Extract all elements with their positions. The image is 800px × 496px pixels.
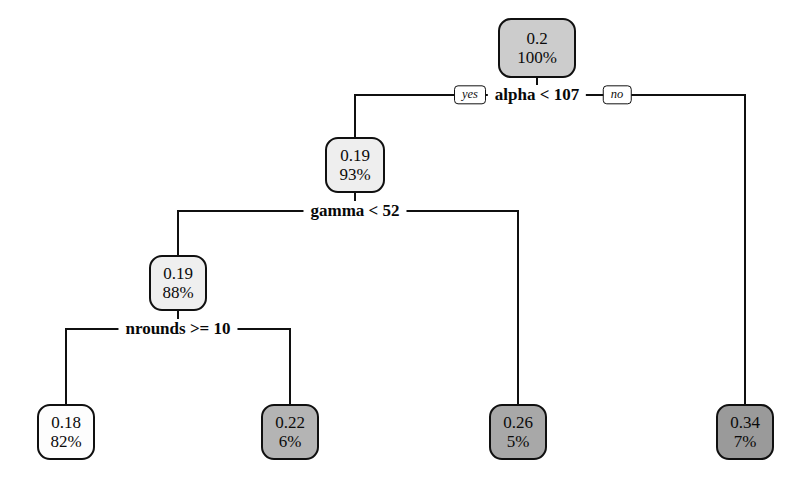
node-percent: 6%: [279, 432, 302, 451]
node-value: 0.22: [275, 413, 305, 432]
node-value: 0.34: [730, 413, 760, 432]
branch-label-yes: yes: [454, 85, 486, 104]
split-condition-label: gamma < 52: [303, 201, 406, 221]
node-value: 0.19: [340, 146, 370, 165]
node-percent: 82%: [50, 432, 81, 451]
tree-internal-node: 0.1988%: [149, 255, 207, 311]
node-percent: 93%: [339, 165, 370, 184]
node-percent: 100%: [517, 48, 557, 67]
node-value: 0.19: [163, 264, 193, 283]
branch-label-no: no: [603, 85, 632, 104]
node-percent: 7%: [734, 432, 757, 451]
node-value: 0.2: [526, 29, 547, 48]
edge-right-split-nrounds: [178, 329, 290, 404]
node-value: 0.26: [503, 413, 533, 432]
tree-leaf-node: 0.226%: [261, 404, 319, 460]
node-value: 0.18: [51, 413, 81, 432]
node-percent: 5%: [507, 432, 530, 451]
edge-right-split-gamma: [355, 211, 518, 404]
tree-leaf-node: 0.265%: [489, 404, 547, 460]
tree-connectors: [0, 0, 800, 496]
split-condition-label: nrounds >= 10: [118, 319, 237, 339]
tree-leaf-node: 0.1882%: [37, 404, 95, 460]
edge-left-split-nrounds: [66, 329, 178, 404]
tree-internal-node: 0.2100%: [498, 18, 576, 78]
tree-internal-node: 0.1993%: [325, 137, 385, 193]
decision-tree-figure: 0.2100%0.1993%0.1988%0.1882%0.226%0.265%…: [0, 0, 800, 496]
tree-leaf-node: 0.347%: [716, 404, 774, 460]
node-percent: 88%: [162, 283, 193, 302]
edge-right-split-alpha: [537, 95, 745, 404]
split-condition-label: alpha < 107: [488, 85, 586, 105]
